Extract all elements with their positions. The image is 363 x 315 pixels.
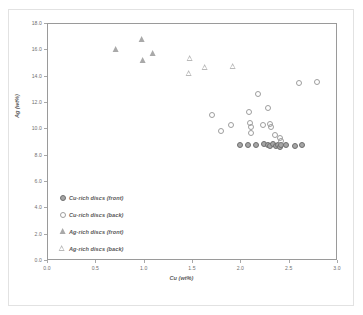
legend-marker-open-triangle-icon: [58, 244, 67, 253]
x-tick-label: 0.0: [27, 265, 67, 271]
y-tick-label: 4.0: [0, 204, 42, 210]
data-point-open-circle: [246, 109, 252, 115]
data-point-open-circle: [268, 124, 274, 130]
data-point-open-circle: [260, 122, 266, 128]
scatter-chart-figure: Ag (wt%) Cu (wt%) 0.02.04.06.08.010.012.…: [0, 0, 363, 315]
x-tick-label: 1.0: [124, 265, 164, 271]
legend-label: Ag-rich discs (front): [69, 229, 124, 235]
x-tick-label: 2.0: [220, 265, 260, 271]
y-axis-title: Ag (wt%): [14, 94, 20, 118]
legend-label: Cu-rich discs (back): [69, 212, 123, 218]
legend-item[interactable]: Ag-rich discs (back): [58, 240, 188, 257]
data-point-open-circle: [265, 105, 271, 111]
legend-marker-filled-circle-icon: [58, 193, 67, 202]
data-point-filled-circle: [292, 143, 298, 149]
legend-item[interactable]: Ag-rich discs (front): [58, 223, 188, 240]
x-tick-mark: [47, 260, 48, 263]
data-point-filled-triangle: [139, 57, 145, 63]
data-point-open-triangle: [187, 55, 193, 61]
y-tick-label: 10.0: [0, 125, 42, 131]
data-point-filled-circle: [245, 142, 251, 148]
x-axis-title: Cu (wt%): [0, 275, 363, 281]
data-point-open-triangle: [59, 245, 65, 251]
x-tick-mark: [337, 260, 338, 263]
y-tick-label: 12.0: [0, 99, 42, 105]
y-tick-label: 6.0: [0, 178, 42, 184]
legend-item[interactable]: Cu-rich discs (back): [58, 206, 188, 223]
data-point-open-triangle: [202, 64, 208, 70]
data-point-filled-triangle: [59, 228, 65, 234]
data-point-open-circle: [218, 128, 224, 134]
legend-item[interactable]: Cu-rich discs (front): [58, 189, 188, 206]
x-tick-label: 0.5: [75, 265, 115, 271]
data-point-filled-circle: [60, 195, 66, 201]
data-point-filled-circle: [237, 142, 243, 148]
data-point-open-triangle: [186, 70, 192, 76]
data-point-filled-triangle: [150, 50, 156, 56]
y-tick-label: 2.0: [0, 231, 42, 237]
y-tick-label: 8.0: [0, 152, 42, 158]
x-tick-mark: [289, 260, 290, 263]
x-tick-label: 2.5: [269, 265, 309, 271]
data-point-open-circle: [248, 130, 254, 136]
legend-label: Cu-rich discs (front): [69, 195, 124, 201]
data-point-open-circle: [278, 138, 284, 144]
data-point-open-circle: [255, 91, 261, 97]
legend-label: Ag-rich discs (back): [69, 246, 123, 252]
data-point-open-circle: [296, 80, 302, 86]
y-tick-label: 0.0: [0, 257, 42, 263]
data-point-open-circle: [60, 212, 66, 218]
data-point-open-circle: [209, 112, 215, 118]
x-tick-mark: [240, 260, 241, 263]
x-tick-mark: [144, 260, 145, 263]
data-point-filled-circle: [299, 142, 305, 148]
data-point-open-circle: [228, 122, 234, 128]
chart-legend: Cu-rich discs (front)Cu-rich discs (back…: [58, 189, 188, 257]
data-point-filled-triangle: [112, 46, 118, 52]
data-point-filled-circle: [253, 142, 259, 148]
data-point-open-triangle: [230, 63, 236, 69]
data-point-open-circle: [314, 79, 320, 85]
x-tick-label: 3.0: [317, 265, 357, 271]
data-point-filled-triangle: [138, 36, 144, 42]
legend-marker-filled-triangle-icon: [58, 227, 67, 236]
y-tick-label: 18.0: [0, 20, 42, 26]
y-tick-label: 14.0: [0, 73, 42, 79]
x-tick-mark: [192, 260, 193, 263]
x-tick-label: 1.5: [172, 265, 212, 271]
y-tick-label: 16.0: [0, 46, 42, 52]
legend-marker-open-circle-icon: [58, 210, 67, 219]
x-tick-mark: [95, 260, 96, 263]
data-point-filled-circle: [283, 142, 289, 148]
